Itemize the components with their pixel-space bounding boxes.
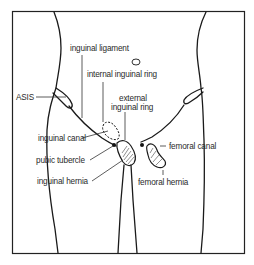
label-external-inguinal-ring-1: external (119, 94, 147, 103)
label-femoral-hernia: femoral hernia (138, 178, 189, 187)
internal-ring-dashed-shape (103, 122, 120, 140)
left-asis-shape (53, 88, 72, 108)
leader-inguinal-hernia (92, 160, 123, 181)
left-body-outline (47, 12, 61, 253)
center-right-line (131, 165, 137, 253)
right-tubercle-dot (140, 143, 144, 147)
navel (132, 59, 140, 65)
label-external-inguinal-ring-2: inguinal ring (111, 103, 154, 112)
label-asis: ASIS (16, 93, 35, 102)
label-inguinal-canal: inguinal canal (38, 134, 86, 143)
label-inguinal-hernia: inguinal hernia (37, 177, 89, 186)
label-femoral-canal: femoral canal (169, 142, 217, 151)
label-pubic-tubercle: pubic tubercle (36, 156, 85, 165)
hernia-anatomy-diagram: inguinal ligament internal inguinal ring… (0, 0, 254, 265)
right-asis-shape (184, 88, 203, 104)
femoral-hernia-shape (147, 144, 166, 168)
center-left-line (118, 165, 124, 253)
right-body-outline (197, 12, 206, 253)
leader-pubic-tubercle (90, 146, 113, 160)
label-internal-inguinal-ring: internal inguinal ring (87, 70, 158, 79)
label-inguinal-ligament: inguinal ligament (70, 44, 130, 53)
